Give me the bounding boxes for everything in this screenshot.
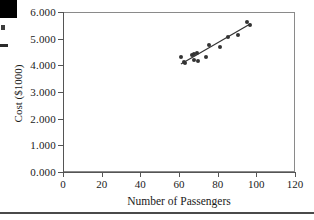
y-axis-tick-label: 0.000: [4, 167, 56, 178]
data-point: [218, 45, 222, 49]
x-axis-tick-label: 80: [198, 179, 238, 190]
data-point: [207, 43, 211, 47]
x-axis-tick: [63, 172, 64, 177]
x-axis-tick-label: 20: [82, 179, 122, 190]
x-axis-tick: [179, 172, 180, 177]
x-axis-tick-label: 100: [236, 179, 276, 190]
x-axis-tick-label: 0: [43, 179, 83, 190]
x-axis-tick: [140, 172, 141, 177]
regression-line: [63, 12, 295, 172]
x-axis-tick-label: 120: [275, 179, 314, 190]
x-axis-tick: [102, 172, 103, 177]
data-point: [226, 35, 230, 39]
y-axis-title: Cost ($1000): [13, 29, 24, 159]
data-point: [183, 61, 187, 65]
data-point: [248, 23, 252, 27]
data-points-layer: [63, 12, 295, 172]
x-axis-tick: [218, 172, 219, 177]
scatter-chart: 0.0001.0002.0003.0004.0005.0006.000 0204…: [0, 0, 314, 220]
page-bottom-rule: [0, 212, 314, 214]
x-axis-tick: [295, 172, 296, 177]
x-axis-tick-label: 40: [120, 179, 160, 190]
x-axis-tick: [256, 172, 257, 177]
data-point: [195, 51, 199, 55]
x-axis-tick-label: 60: [159, 179, 199, 190]
y-axis-tick-label: 6.000: [4, 7, 56, 18]
x-axis-title: Number of Passengers: [63, 195, 295, 207]
